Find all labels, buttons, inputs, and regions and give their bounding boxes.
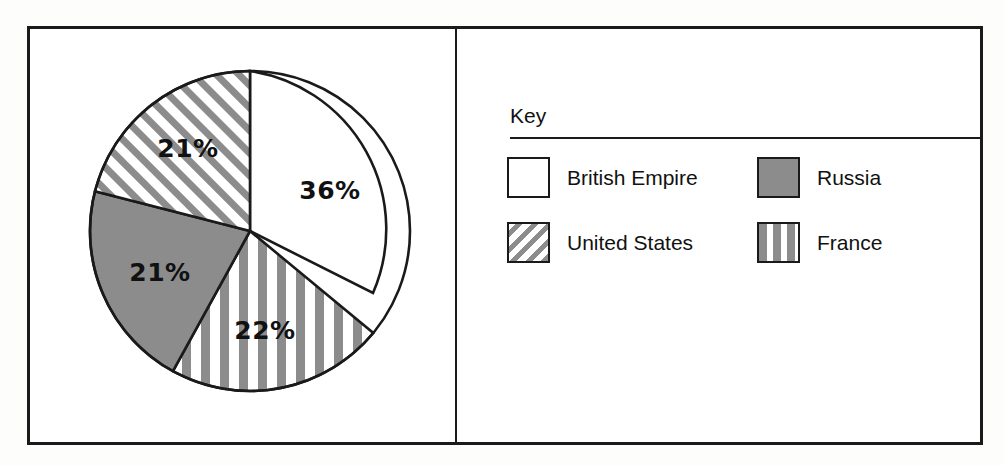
legend-entry-british-empire: British Empire bbox=[507, 157, 698, 198]
legend-entry-united-states: United States bbox=[507, 222, 693, 263]
legend-entry-russia: Russia bbox=[757, 157, 881, 198]
key-title: Key bbox=[510, 105, 546, 126]
legend-label-united-states: United States bbox=[567, 232, 693, 253]
pie-label-france: 22% bbox=[234, 318, 295, 343]
legend-label-russia: Russia bbox=[817, 167, 881, 188]
pie-label-british-empire: 36% bbox=[299, 178, 360, 203]
legend-swatch-united-states-icon bbox=[507, 222, 550, 263]
pie-chart bbox=[30, 29, 455, 442]
legend-entry-france: France bbox=[757, 222, 882, 263]
legend-label-france: France bbox=[817, 232, 882, 253]
key-title-rule bbox=[510, 137, 981, 139]
key-panel: Key British Empire Russia United States … bbox=[457, 29, 981, 442]
pie-label-russia: 21% bbox=[129, 260, 190, 285]
legend-swatch-russia-icon bbox=[757, 157, 800, 198]
pie-chart-panel: 36% 22% 21% 21% bbox=[30, 29, 455, 442]
legend-swatch-france-icon bbox=[757, 222, 800, 263]
legend-swatch-british-empire-icon bbox=[507, 157, 550, 198]
figure-page: 36% 22% 21% 21% Key British Empire Russi… bbox=[0, 0, 1004, 465]
legend-label-british-empire: British Empire bbox=[567, 167, 698, 188]
pie-label-united-states: 21% bbox=[157, 136, 218, 161]
